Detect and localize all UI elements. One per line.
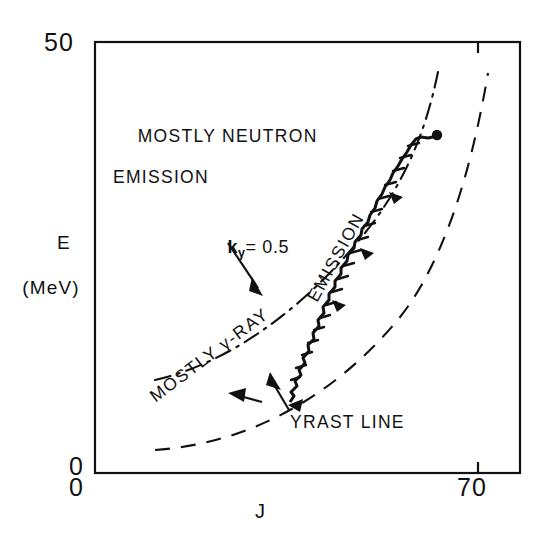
yrast-pointer <box>228 388 262 402</box>
y-axis-title: E (MeV) <box>8 210 94 344</box>
y-axis-max-tick-label: 50 <box>44 28 74 58</box>
annotation-mostly-neutron-emission: MOSTLY NEUTRON EMISSION <box>113 105 318 229</box>
y-axis-title-line2: (MeV) <box>8 277 94 299</box>
figure-container: 50 0 0 70 E (MeV) J MOSTLY NEUTRON EMISS… <box>0 0 547 548</box>
k-symbol: k <box>227 237 238 257</box>
yrast-leader <box>266 372 289 410</box>
gamma-subscript: γ <box>238 246 246 260</box>
x-axis-title: J <box>255 500 266 524</box>
y-axis-title-line1: E <box>57 232 71 253</box>
k-gamma-value: = 0.5 <box>246 237 290 257</box>
cascade-entry-point <box>432 130 442 140</box>
annotation-neutron-line2: EMISSION <box>113 167 318 188</box>
annotation-yrast-line: YRAST LINE <box>290 412 405 433</box>
annotation-k-gamma: kγ= 0.5 <box>205 216 289 282</box>
annotation-neutron-line1: MOSTLY NEUTRON <box>138 126 318 146</box>
x-axis-min-tick-label: 0 <box>69 473 84 503</box>
x-axis-max-tick-label: 70 <box>457 473 487 503</box>
